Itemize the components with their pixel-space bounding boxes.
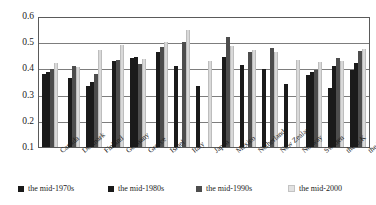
bar <box>332 66 335 147</box>
bar-group <box>83 18 105 147</box>
x-tick-label: Canada <box>58 148 64 155</box>
bar <box>284 84 287 147</box>
bar-group <box>325 18 347 147</box>
bar-group <box>347 18 369 147</box>
legend-item[interactable]: the mid-2000 <box>288 184 342 193</box>
legend-item[interactable]: the mid-1990s <box>196 184 252 193</box>
x-tick-label: Italy <box>190 148 196 155</box>
bar <box>208 61 211 147</box>
x-tick-label: Japan <box>212 148 218 155</box>
bar <box>120 45 123 147</box>
bar <box>156 52 159 147</box>
chart-figure: 0.60.50.40.30.20.1 CanadaDenmarkFinlandG… <box>0 0 376 205</box>
x-tick-label: Israel <box>168 148 174 155</box>
bar <box>164 42 167 147</box>
bar <box>54 63 57 147</box>
legend-swatch-icon <box>18 186 24 192</box>
bar <box>354 63 357 147</box>
legend-label: the mid-1980s <box>118 184 164 193</box>
x-axis-labels: CanadaDenmarkFinlandGermanyGreeceIsraelI… <box>38 148 370 182</box>
y-tick-label: 0.2 <box>22 117 34 127</box>
bar-group <box>149 18 171 147</box>
bar-group <box>259 18 281 147</box>
x-tick-label: Netherlands <box>256 148 262 155</box>
bar <box>328 88 331 147</box>
y-tick-label: 0.1 <box>22 143 34 153</box>
bar <box>350 70 353 147</box>
x-tick-label: Denmark <box>80 148 86 155</box>
x-tick-label: the U.S <box>366 148 372 155</box>
x-tick-label: New Zealand <box>278 148 284 155</box>
legend-swatch-icon <box>108 186 114 192</box>
bar-group <box>237 18 259 147</box>
legend-label: the mid-2000 <box>299 184 342 193</box>
y-tick-label: 0.6 <box>22 12 34 22</box>
bar <box>76 67 79 147</box>
y-axis: 0.60.50.40.30.20.1 <box>0 0 38 165</box>
bar-group <box>127 18 149 147</box>
bar <box>230 46 233 147</box>
y-tick-label: 0.4 <box>22 65 34 75</box>
bar-series-container <box>39 18 369 147</box>
bar-group <box>193 18 215 147</box>
x-tick-label: Sweden <box>322 148 328 155</box>
bar <box>186 30 189 147</box>
bar <box>134 57 137 147</box>
x-tick-label: Greece <box>146 148 152 155</box>
bar <box>222 57 225 147</box>
bar <box>130 58 133 147</box>
legend-item[interactable]: the mid-1970s <box>18 184 74 193</box>
bar-group <box>171 18 193 147</box>
legend-label: the mid-1990s <box>206 184 252 193</box>
bar <box>112 61 115 147</box>
bar-group <box>105 18 127 147</box>
bar <box>240 65 243 147</box>
bar <box>50 69 53 147</box>
bar <box>196 86 199 147</box>
chart-legend: the mid-1970sthe mid-1980sthe mid-1990st… <box>0 184 376 200</box>
bar <box>160 47 163 147</box>
legend-item[interactable]: the mid-1980s <box>108 184 164 193</box>
bar-group <box>39 18 61 147</box>
y-tick-label: 0.5 <box>22 38 34 48</box>
bar <box>174 66 177 147</box>
bar <box>42 74 45 147</box>
x-tick-label: Finland <box>102 148 108 155</box>
y-tick-label: 0.3 <box>22 91 34 101</box>
bar-group <box>61 18 83 147</box>
bar <box>362 49 365 147</box>
bar <box>306 75 309 147</box>
x-tick-label: the U.K <box>344 148 350 155</box>
legend-swatch-icon <box>196 186 202 192</box>
bar <box>46 72 49 147</box>
bar <box>252 50 255 148</box>
x-tick-label: Mexico <box>234 148 240 155</box>
x-tick-label: Germany <box>124 148 130 155</box>
bar <box>182 42 185 147</box>
x-tick-label: Norway <box>300 148 306 155</box>
bar <box>226 37 229 147</box>
bar <box>262 69 265 147</box>
bar-group <box>215 18 237 147</box>
bar <box>86 86 89 147</box>
legend-label: the mid-1970s <box>28 184 74 193</box>
legend-swatch-icon <box>288 185 295 192</box>
